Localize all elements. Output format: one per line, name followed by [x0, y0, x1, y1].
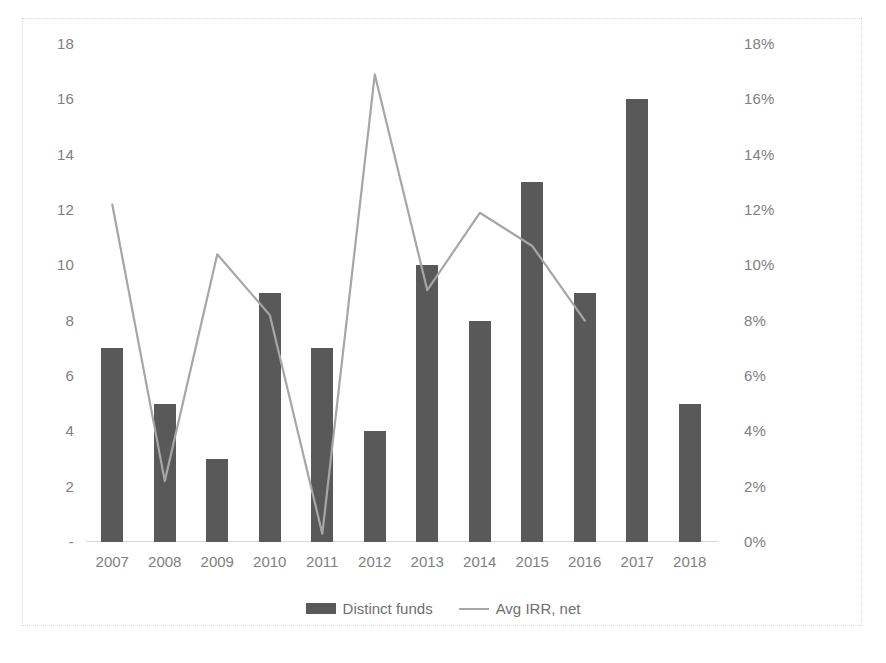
- line-series-avg-irr: [86, 44, 716, 542]
- y-axis-left-tick: 8: [34, 312, 74, 329]
- bar: [101, 348, 123, 542]
- y-axis-left-tick: 18: [34, 35, 74, 52]
- legend-label-avg-irr: Avg IRR, net: [496, 600, 581, 617]
- bar: [521, 182, 543, 542]
- y-axis-right-tick: 2%: [744, 478, 792, 495]
- y-axis-right-tick: 4%: [744, 422, 792, 439]
- bar: [416, 265, 438, 542]
- bar: [364, 431, 386, 542]
- bar: [679, 404, 701, 542]
- x-axis-tick: 2012: [349, 553, 402, 570]
- y-axis-left-tick: 12: [34, 201, 74, 218]
- x-axis-tick: 2017: [611, 553, 664, 570]
- y-axis-left-tick: -: [34, 533, 74, 550]
- x-axis-tick: 2014: [454, 553, 507, 570]
- y-axis-left-tick: 4: [34, 422, 74, 439]
- x-axis-tick: 2013: [401, 553, 454, 570]
- plot-area: [86, 44, 716, 542]
- legend-item-avg-irr: Avg IRR, net: [459, 600, 581, 617]
- y-axis-left-tick: 16: [34, 90, 74, 107]
- x-axis-tick: 2015: [506, 553, 559, 570]
- legend-label-distinct-funds: Distinct funds: [343, 600, 433, 617]
- y-axis-right-tick: 16%: [744, 90, 792, 107]
- y-axis-left-tick: 10: [34, 256, 74, 273]
- avg-irr-polyline: [112, 74, 585, 533]
- x-axis-tick: 2011: [296, 553, 349, 570]
- legend-line-swatch-icon: [459, 608, 489, 610]
- y-axis-right-tick: 12%: [744, 201, 792, 218]
- y-axis-right-tick: 0%: [744, 533, 792, 550]
- bar: [574, 293, 596, 542]
- y-axis-left-tick: 6: [34, 367, 74, 384]
- legend-item-distinct-funds: Distinct funds: [306, 600, 433, 617]
- bar: [311, 348, 333, 542]
- y-axis-left-tick: 14: [34, 146, 74, 163]
- x-axis-tick: 2018: [664, 553, 717, 570]
- y-axis-right-tick: 10%: [744, 256, 792, 273]
- x-axis-tick: 2016: [559, 553, 612, 570]
- y-axis-left-tick: 2: [34, 478, 74, 495]
- bar: [626, 99, 648, 542]
- bar: [206, 459, 228, 542]
- y-axis-right-tick: 8%: [744, 312, 792, 329]
- y-axis-right-tick: 6%: [744, 367, 792, 384]
- chart-legend: Distinct funds Avg IRR, net: [0, 600, 886, 617]
- bar: [154, 404, 176, 542]
- y-axis-right-tick: 18%: [744, 35, 792, 52]
- x-axis-tick: 2009: [191, 553, 244, 570]
- x-axis-tick: 2007: [86, 553, 139, 570]
- bar: [259, 293, 281, 542]
- legend-bar-swatch-icon: [306, 603, 336, 614]
- y-axis-right-tick: 14%: [744, 146, 792, 163]
- x-axis-tick: 2010: [244, 553, 297, 570]
- bar: [469, 321, 491, 542]
- x-axis-tick: 2008: [139, 553, 192, 570]
